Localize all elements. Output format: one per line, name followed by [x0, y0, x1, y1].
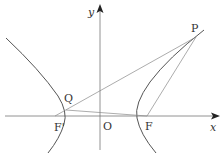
hyperbola-diagram: y x O P Q F F' — [0, 0, 221, 160]
origin-label: O — [103, 120, 112, 133]
hyperbola-right-branch — [137, 30, 204, 153]
point-fprime-label: F' — [54, 121, 65, 134]
x-axis-label: x — [210, 121, 217, 134]
point-q-label: Q — [64, 92, 73, 105]
point-p-label: P — [191, 22, 199, 35]
point-f-label: F — [145, 120, 153, 133]
segment-q-f — [66, 110, 147, 116]
y-axis-label: y — [87, 6, 95, 19]
hyperbola-left-branch — [6, 38, 65, 153]
axes — [5, 4, 220, 150]
segment-fprime-p — [55, 37, 196, 116]
